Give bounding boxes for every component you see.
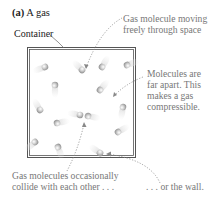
annotation-moving: Gas molecule moving freely through space: [123, 13, 207, 35]
annotation-collide: Gas molecules occasionally collide with …: [12, 170, 119, 192]
arrowheads: [82, 64, 117, 157]
annotation-far-apart: Molecules are far apart. This makes a ga…: [147, 68, 201, 112]
annotation-wall: . . . or the wall.: [146, 181, 204, 192]
container-leader-line: [50, 35, 64, 48]
arrow-collide: [67, 124, 84, 171]
molecules: [23, 54, 140, 160]
arrow-far-apart: [114, 77, 143, 96]
